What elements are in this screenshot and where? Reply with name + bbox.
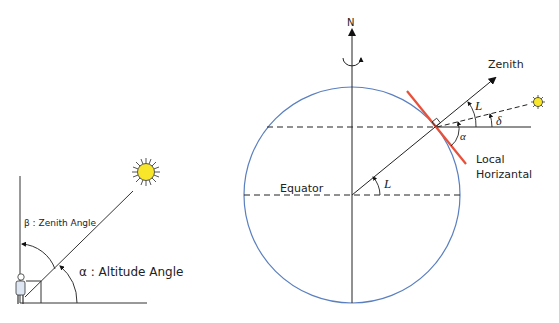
sun-ray — [25, 191, 133, 297]
sun-icon — [132, 158, 160, 186]
altitude-angle-label: α : Altitude Angle — [79, 265, 183, 279]
latitude-label-observer: L — [474, 98, 482, 113]
altitude-angle-arc — [60, 266, 77, 303]
latitude-label-center: L — [383, 176, 391, 191]
observer-box — [26, 281, 41, 303]
local-horizontal-label-line2: Horizantal — [476, 168, 532, 181]
local-horizontal-label-line1: Local — [476, 153, 505, 166]
declination-label: δ — [496, 114, 502, 128]
declination-angle-arc — [490, 114, 492, 127]
sun-icon — [531, 95, 545, 109]
zenith-label: Zenith — [488, 58, 524, 71]
zenith-angle-arc — [22, 244, 55, 269]
zenith-angle-label: β : Zenith Angle — [24, 218, 97, 228]
latitude-angle-arc-center — [373, 177, 380, 195]
north-label: N — [347, 17, 354, 28]
altitude-angle-arc — [451, 122, 459, 146]
sun-ray — [437, 104, 530, 127]
equator-label: Equator — [280, 182, 324, 195]
left-diagram: β : Zenith Angle α : Altitude Angle — [16, 158, 183, 304]
right-diagram: N Equator Zenith Local Horizantal — [244, 17, 545, 303]
diagram-canvas: β : Zenith Angle α : Altitude Angle N Eq… — [0, 0, 559, 323]
altitude-label: α — [460, 130, 466, 142]
